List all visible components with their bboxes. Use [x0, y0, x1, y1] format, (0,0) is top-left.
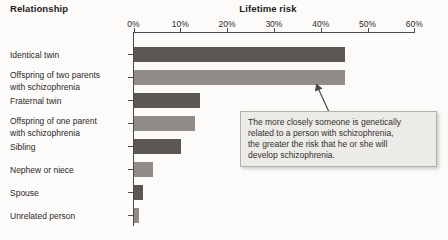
bar-label: Nephew or niece: [10, 165, 132, 177]
bar-label: Offspring of one parent with schizophren…: [10, 116, 132, 139]
bar: [134, 139, 181, 154]
row-tick-mark: [128, 123, 133, 124]
bar-label: Unrelated person: [10, 211, 132, 223]
row-tick-mark: [128, 146, 133, 147]
bar: [134, 162, 153, 177]
lifetime-risk-axis-title: Lifetime risk: [218, 3, 318, 14]
row-tick-mark: [128, 169, 133, 170]
bar: [134, 208, 139, 223]
relationship-column-header: Relationship: [10, 3, 68, 14]
row-tick-mark: [128, 100, 133, 101]
row-tick-mark: [128, 215, 133, 216]
bar: [134, 70, 345, 85]
bar: [134, 47, 345, 62]
bar-label: Identical twin: [10, 50, 132, 62]
bar-label: Offspring of two parents with schizophre…: [10, 70, 132, 93]
bar-label: Spouse: [10, 188, 132, 200]
row-tick-mark: [128, 54, 133, 55]
bar-label: Fraternal twin: [10, 96, 132, 108]
bar-label: Sibling: [10, 142, 132, 154]
bar: [134, 185, 143, 200]
callout-box: The more closely someone is genetically …: [240, 111, 437, 167]
schizophrenia-risk-chart: Relationship Lifetime risk 0%10%20%30%40…: [0, 0, 448, 240]
bar: [134, 93, 200, 108]
row-tick-mark: [128, 77, 133, 78]
row-tick-mark: [128, 192, 133, 193]
bar: [134, 116, 195, 131]
horizontal-axis-line: [133, 32, 415, 33]
